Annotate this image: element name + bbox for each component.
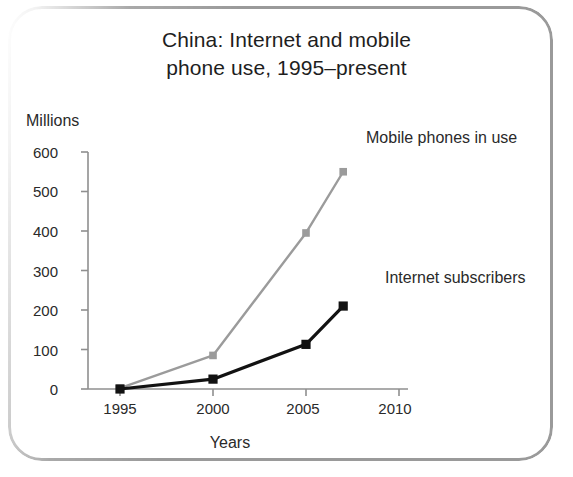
- data-point-mobile-phones-in-use-2005: [302, 229, 310, 237]
- chart-plot-area: [0, 0, 573, 477]
- y-axis-ticks: [81, 152, 88, 389]
- data-point-internet-subscribers-2007: [339, 301, 348, 310]
- data-point-internet-subscribers-2000: [208, 375, 217, 384]
- data-series-layer: [115, 168, 347, 394]
- axis-lines: [88, 152, 408, 389]
- data-point-internet-subscribers-2005: [301, 340, 310, 349]
- data-point-mobile-phones-in-use-2007: [339, 168, 347, 176]
- data-point-mobile-phones-in-use-2000: [209, 352, 217, 360]
- x-axis-ticks: [120, 389, 399, 396]
- chart-page: China: Internet and mobile phone use, 19…: [0, 0, 573, 477]
- series-line-mobile-phones-in-use: [120, 172, 343, 388]
- data-point-internet-subscribers-1995: [115, 384, 124, 393]
